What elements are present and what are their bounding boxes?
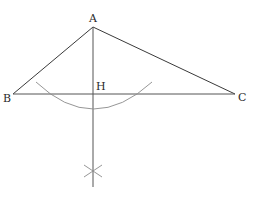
segment-ab	[13, 27, 93, 94]
construction-arc	[36, 82, 152, 109]
label-c: C	[238, 91, 246, 104]
segment-ac	[93, 27, 235, 94]
triangle-diagram: A B C H	[0, 0, 253, 199]
label-h: H	[96, 80, 106, 93]
label-b: B	[3, 92, 11, 105]
label-a: A	[88, 12, 98, 25]
